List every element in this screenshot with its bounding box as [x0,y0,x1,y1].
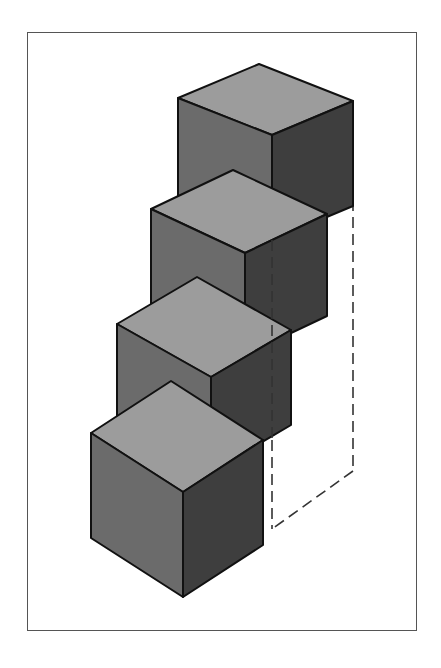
cube-stack-diagram [0,0,441,668]
cube-stack [91,64,353,597]
dashed-bottom-diagonal [272,471,353,529]
